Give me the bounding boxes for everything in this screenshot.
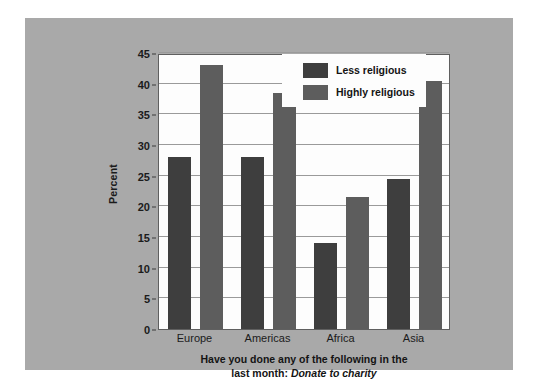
legend-label: Less religious — [336, 64, 407, 76]
bar-africa-highly-religious — [346, 197, 369, 329]
y-tick-mark — [152, 84, 156, 85]
x-tick-label-africa: Africa — [326, 332, 354, 344]
y-tick-mark — [152, 299, 156, 300]
chart-panel: 051015202530354045 Percent Less religiou… — [25, 18, 513, 370]
y-tick-label: 5 — [144, 293, 150, 305]
y-tick-mark — [152, 54, 156, 55]
y-tick-label: 25 — [138, 171, 150, 183]
x-axis: EuropeAmericasAfricaAsia — [158, 332, 450, 350]
x-tick-label-americas: Americas — [245, 332, 291, 344]
y-axis: 051015202530354045 — [130, 54, 156, 330]
bar-americas-less-religious — [241, 157, 264, 329]
y-tick-label: 10 — [138, 263, 150, 275]
legend-item-less-religious[interactable]: Less religious — [303, 61, 407, 79]
y-tick-label: 40 — [138, 79, 150, 91]
bar-europe-less-religious — [168, 157, 191, 329]
legend-label: Highly religious — [336, 86, 415, 98]
y-axis-title: Percent — [107, 164, 119, 204]
y-tick-mark — [152, 115, 156, 116]
bar-asia-less-religious — [387, 179, 410, 329]
caption-line-2-italic: Donate to charity — [291, 367, 377, 379]
bar-americas-highly-religious — [273, 93, 296, 329]
y-tick-mark — [152, 268, 156, 269]
x-tick-label-europe: Europe — [177, 332, 212, 344]
legend-item-highly-religious[interactable]: Highly religious — [303, 83, 415, 101]
caption-line-1: Have you done any of the following in th… — [200, 353, 407, 365]
chart-legend: Less religiousHighly religious — [282, 54, 426, 107]
x-axis-caption: Have you done any of the following in th… — [158, 352, 450, 380]
bar-africa-less-religious — [314, 243, 337, 329]
y-tick-label: 30 — [138, 140, 150, 152]
x-tick-label-asia: Asia — [403, 332, 424, 344]
caption-line-2-plain: last month: — [231, 367, 288, 379]
bar-europe-highly-religious — [200, 65, 223, 329]
y-tick-label: 20 — [138, 201, 150, 213]
y-tick-mark — [152, 176, 156, 177]
y-tick-mark — [152, 146, 156, 147]
legend-swatch-icon — [303, 63, 328, 78]
y-tick-mark — [152, 207, 156, 208]
y-tick-label: 45 — [138, 48, 150, 60]
gridline — [159, 52, 449, 53]
y-tick-mark — [152, 238, 156, 239]
y-tick-mark — [152, 330, 156, 331]
y-tick-label: 15 — [138, 232, 150, 244]
bar-asia-highly-religious — [419, 81, 442, 329]
figure-container: 051015202530354045 Percent Less religiou… — [0, 0, 536, 387]
y-tick-label: 0 — [144, 324, 150, 336]
y-tick-label: 35 — [138, 109, 150, 121]
legend-swatch-icon — [303, 85, 328, 100]
